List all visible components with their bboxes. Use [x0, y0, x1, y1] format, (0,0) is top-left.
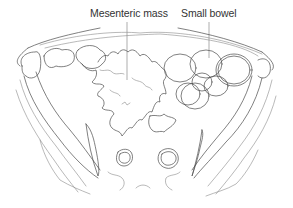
- pelvis-cross-section-drawing: [0, 0, 293, 208]
- pelvic-organs: [108, 149, 180, 190]
- left-bowel: [21, 46, 106, 79]
- anatomical-diagram: Mesenteric mass Small bowel: [0, 0, 293, 208]
- right-pelvic-wall: [192, 76, 276, 196]
- mesenteric-mass: [82, 50, 176, 136]
- left-pelvic-wall: [16, 72, 100, 194]
- skin-outline: [17, 28, 273, 70]
